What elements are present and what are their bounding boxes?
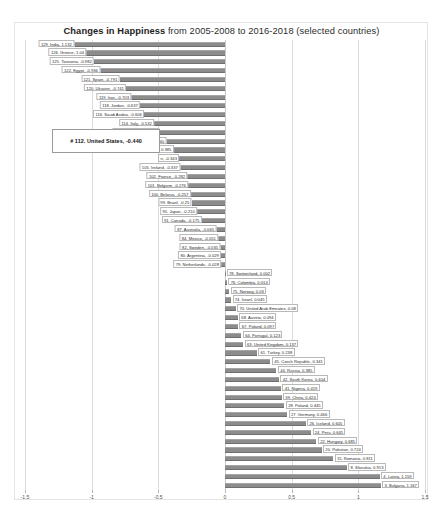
bar[interactable] [225, 297, 231, 302]
bar[interactable] [180, 165, 225, 170]
bar-label: 80. Argentina, -0.029 [178, 251, 221, 258]
bar[interactable] [126, 86, 225, 91]
bar-label: 114. Italy, -0.532 [119, 119, 154, 126]
bar[interactable] [187, 174, 225, 179]
bar-label: 121. Spain, -0.791 [81, 75, 119, 82]
bar-row: 67. Poland, 0.097 [25, 322, 425, 331]
bar-row: 27. Germany, 0.466 [25, 411, 425, 420]
bar-row: 42. South Korea, 0.404 [25, 375, 425, 384]
bar-row: 24. Peru, 0.645 [25, 428, 425, 437]
bar[interactable] [225, 412, 287, 417]
bar-row: 28. Poland, 0.445 [25, 402, 425, 411]
bar-row: 100. Belarus, -0.257 [25, 190, 425, 199]
bar-row: 105. Ireland, -0.337 [25, 164, 425, 173]
bar[interactable] [131, 95, 225, 100]
bar[interactable] [225, 430, 311, 435]
bar[interactable] [225, 350, 257, 355]
bar[interactable] [216, 227, 225, 232]
bar[interactable] [144, 112, 225, 117]
bar-row: 78. Switzerland, 0.002 [25, 269, 425, 278]
bar[interactable] [225, 439, 316, 444]
bar-row: 63. United Kingdom, 0.137 [25, 340, 425, 349]
bar-row: 4. Latvia, 1.159 [25, 472, 425, 481]
bar-row: 99. Brazil, -0.25 [25, 199, 425, 208]
bar-label: 118. Jordan, -0.637 [100, 101, 140, 108]
bar[interactable] [221, 253, 225, 258]
bar[interactable] [218, 236, 225, 241]
bar[interactable] [225, 342, 243, 347]
bar-label: 68. Austria, 0.094 [239, 313, 276, 320]
bar[interactable] [225, 386, 281, 391]
bar-label: 91. Canada, -0.175 [162, 216, 202, 223]
bar[interactable] [225, 359, 270, 364]
bar[interactable] [86, 50, 225, 55]
bar[interactable] [174, 147, 225, 152]
bar-label: 84. Mexico, -0.051 [180, 234, 219, 241]
bar[interactable] [74, 42, 225, 47]
bar-label: 74. Israel, 0.045 [233, 295, 267, 302]
bar[interactable] [94, 59, 225, 64]
bar-row: 61. Turkey, 0.238 [25, 349, 425, 358]
bar-label: 41. Nigeria, 0.419 [282, 384, 319, 391]
bar[interactable] [100, 68, 225, 73]
bar[interactable] [225, 306, 236, 311]
bar-label: 125. Tanzania, -0.982 [50, 57, 94, 64]
bar[interactable] [220, 245, 225, 250]
bar-row: 41. Nigeria, 0.419 [25, 384, 425, 393]
bar-row: 87. Australia, -0.065 [25, 225, 425, 234]
bar-label: 105. Ireland, -0.337 [140, 163, 181, 170]
bar-label: 45. Czech Republic, 0.341 [272, 357, 325, 364]
bar-label: 22. Hungary, 0.685 [318, 437, 358, 444]
bar-row: 120. Ukraine, -0.741 [25, 84, 425, 93]
bar-row: n, -0.343 [25, 155, 425, 164]
bar-label: 24. Peru, 0.645 [313, 428, 346, 435]
bar[interactable] [225, 474, 380, 479]
bar[interactable] [192, 200, 225, 205]
bar[interactable] [225, 465, 347, 470]
bar-label: 79. Netherlands, -0.028 [173, 260, 221, 267]
bar-label: 95. Japan, -0.210 [160, 207, 197, 214]
bar[interactable] [225, 324, 238, 329]
bar[interactable] [120, 77, 225, 82]
bar[interactable] [140, 103, 225, 108]
bar-label: 116. Saudi Arabia, -0.606 [93, 110, 144, 117]
bar[interactable] [179, 156, 225, 161]
bar[interactable] [225, 395, 282, 400]
bar[interactable] [221, 262, 225, 267]
bar[interactable] [188, 183, 225, 188]
bar-label: 82. Sweden, -0.035 [180, 243, 221, 250]
bar[interactable] [225, 447, 322, 452]
axis-tick-label: 0 [224, 494, 227, 500]
bar-row: 45. Czech Republic, 0.341 [25, 358, 425, 367]
bar[interactable] [225, 289, 229, 294]
bar-row: 118. Jordan, -0.637 [25, 102, 425, 111]
bar[interactable] [160, 130, 225, 135]
bar-row: 39. China, 0.424 [25, 393, 425, 402]
bar[interactable] [225, 456, 333, 461]
bar[interactable] [225, 483, 381, 488]
axis-tick-label: -0.5 [154, 494, 163, 500]
bar[interactable] [191, 192, 225, 197]
bar-row: 116. Saudi Arabia, -0.606 [25, 111, 425, 120]
bar-row: 68. Austria, 0.094 [25, 314, 425, 323]
bar[interactable] [197, 209, 225, 214]
bar[interactable] [225, 315, 238, 320]
gridline [425, 40, 426, 490]
bar-row: 102. France, -0.282 [25, 172, 425, 181]
bar[interactable] [225, 280, 227, 285]
bar[interactable] [225, 271, 226, 276]
bar-label: 26. Iceland, 0.605 [307, 419, 345, 426]
bar-label: 102. France, -0.282 [147, 172, 188, 179]
bar[interactable] [225, 421, 306, 426]
bar[interactable] [225, 368, 276, 373]
bar[interactable] [202, 218, 225, 223]
bar[interactable] [166, 139, 225, 144]
chart-title-rest: from 2005-2008 to 2016-2018 (selected co… [165, 26, 379, 36]
bar-label: 67. Poland, 0.097 [239, 322, 276, 329]
bar-row: 91. Canada, -0.175 [25, 216, 425, 225]
bar-row: 76. Colombia, 0.014 [25, 278, 425, 287]
bar[interactable] [225, 333, 241, 338]
bar[interactable] [225, 403, 284, 408]
bar[interactable] [225, 377, 279, 382]
bar[interactable] [154, 121, 225, 126]
